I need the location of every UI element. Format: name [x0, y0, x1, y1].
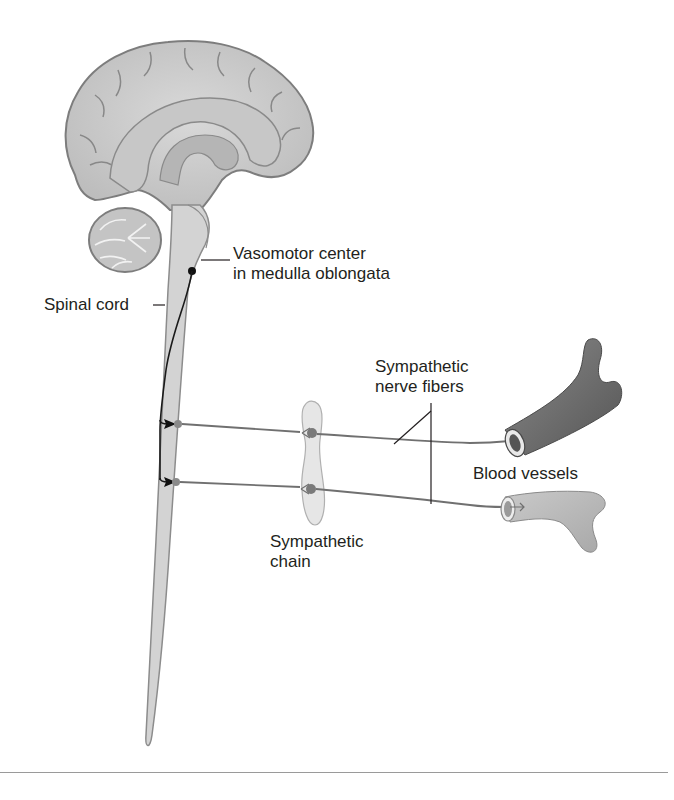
label-line: Sympathetic: [270, 532, 364, 552]
label-line: in medulla oblongata: [233, 264, 390, 284]
label-vasomotor-center: Vasomotor center in medulla oblongata: [233, 244, 390, 284]
blood-vessels: [501, 339, 622, 552]
label-line: Vasomotor center: [233, 244, 390, 264]
label-line: chain: [270, 552, 364, 572]
label-sympathetic-nerve-fibers: Sympathetic nerve fibers: [375, 357, 469, 397]
sympathetic-chain: [302, 401, 325, 525]
label-line: Sympathetic: [375, 357, 469, 377]
label-line: Spinal cord: [44, 295, 129, 315]
label-line: nerve fibers: [375, 377, 469, 397]
sympathetic-vasomotor-diagram: [0, 0, 674, 800]
caption-divider: [0, 772, 668, 773]
spinal-cord: [146, 205, 209, 746]
label-line: Blood vessels: [473, 464, 578, 484]
label-blood-vessels: Blood vessels: [473, 464, 578, 484]
label-spinal-cord: Spinal cord: [44, 295, 129, 315]
cerebrum: [66, 41, 314, 210]
label-sympathetic-chain: Sympathetic chain: [270, 532, 364, 572]
cerebellum: [89, 208, 161, 272]
sympathetic-nerve-fibers: [172, 420, 510, 507]
